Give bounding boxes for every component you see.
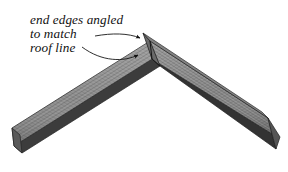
left-board-edge-face (14, 59, 160, 153)
right-board (150, 41, 280, 149)
end-edges-callout: end edges angled to match roof line (30, 12, 123, 55)
callout-line-2: to match (30, 26, 77, 41)
roof-joint-figure: end edges angled to match roof line (0, 0, 288, 172)
left-board (12, 41, 160, 153)
callout-line-3: roof line (30, 40, 76, 55)
callout-line-1: end edges angled (30, 12, 123, 27)
leader-line-upper (95, 34, 140, 38)
illustration-page: end edges angled to match roof line (0, 0, 288, 172)
right-board-edge-face (152, 59, 276, 149)
angled-end-edge-top (143, 33, 268, 118)
apex-mitered-joint (143, 33, 268, 118)
leader-to-top-end-edge (95, 34, 140, 38)
